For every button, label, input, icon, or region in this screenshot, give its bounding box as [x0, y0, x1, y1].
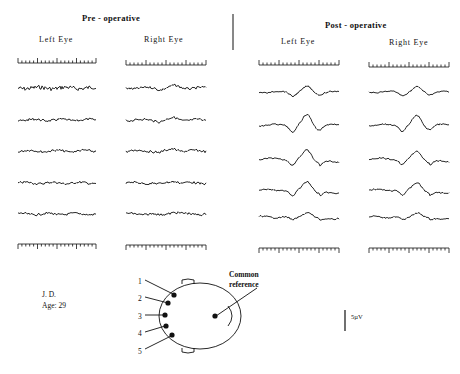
vep-trace: [369, 213, 449, 220]
electrodes: [162, 292, 217, 337]
vep-trace: [259, 86, 339, 97]
vep-trace: [369, 151, 449, 165]
vep-trace: [126, 212, 206, 216]
common-reference-electrode: [212, 313, 217, 318]
vep-trace: [126, 181, 206, 185]
vep-trace: [18, 149, 96, 152]
vep-trace: [126, 148, 206, 153]
vep-trace: [259, 150, 339, 166]
head-diagram: [145, 279, 257, 353]
vep-trace: [369, 86, 449, 96]
vep-trace: [18, 85, 96, 90]
waveform-traces: [18, 84, 449, 220]
vep-trace: [259, 212, 339, 220]
vep-trace: [126, 84, 206, 91]
vep-figure: [0, 0, 460, 374]
vep-trace: [369, 183, 449, 196]
vep-trace: [126, 116, 206, 123]
vep-trace: [369, 115, 449, 132]
vep-trace: [259, 181, 339, 196]
time-rulers: [18, 58, 449, 253]
vep-trace: [259, 114, 339, 132]
vep-trace: [18, 181, 96, 184]
vep-trace: [18, 118, 96, 121]
vep-trace: [18, 212, 96, 216]
